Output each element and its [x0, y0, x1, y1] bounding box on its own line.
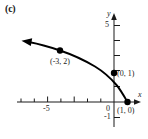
x-axis-ticks	[21, 97, 101, 103]
point-annotation-0-1: (0, 1)	[117, 70, 134, 78]
data-point-marker	[124, 99, 130, 105]
x-axis-label: x	[138, 91, 142, 99]
figure-panel-c: (c)	[0, 0, 148, 139]
point-annotation-1-0: (1, 0)	[117, 107, 134, 115]
point-annotation-neg3-2: (-3, 2)	[50, 58, 70, 66]
y-tick-label-neg1: -1	[104, 113, 111, 121]
origin-tick-label: 0	[106, 105, 110, 113]
data-point-marker	[57, 47, 63, 53]
y-tick-label-5: 5	[105, 21, 109, 29]
x-tick-label-neg5: -5	[43, 105, 50, 113]
x-axis	[17, 99, 141, 105]
data-curve	[22, 38, 128, 102]
y-axis-label: y	[107, 10, 111, 18]
